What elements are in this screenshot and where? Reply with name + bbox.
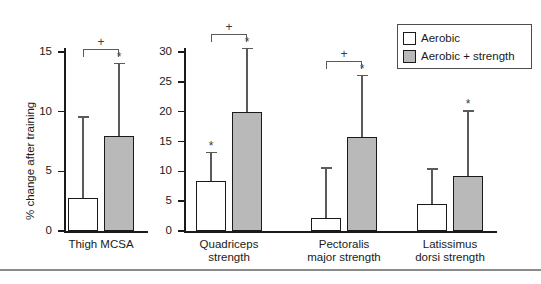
x-axis-category-label-strength-measures-1: Pectoralismajor strength — [284, 238, 404, 264]
x-axis-category-line: Pectoralis — [284, 238, 404, 251]
figure-bar-chart: % change after training 051015*+Thigh MC… — [0, 0, 541, 284]
y-axis-tick-label-strength-measures-25: 25 — [140, 76, 172, 88]
significance-asterisk-strength-measures-0-aerobic: * — [202, 141, 220, 151]
significance-bracket-thigh-0 — [83, 49, 119, 58]
y-axis-tick-label-strength-measures-15: 15 — [140, 136, 172, 148]
x-axis-line-strength-measures — [184, 231, 497, 233]
x-axis-category-label-strength-measures-0: Quadricepsstrength — [169, 238, 289, 264]
error-bar-strength-measures-0-aerobic-strength — [246, 48, 247, 112]
x-axis-category-line: Quadriceps — [169, 238, 289, 251]
bar-strength-measures-0-aerobic-strength — [232, 112, 262, 231]
y-axis-tick-label-thigh-10: 10 — [20, 106, 52, 118]
error-bar-strength-measures-0-aerobic — [210, 152, 211, 182]
error-bar-strength-measures-2-aerobic-strength — [467, 110, 468, 176]
y-axis-tick-strength-measures-25 — [178, 81, 184, 83]
y-axis-tick-thigh-5 — [58, 171, 64, 173]
y-axis-tick-label-strength-measures-20: 20 — [140, 106, 172, 118]
legend-item-aerobic-strength: Aerobic + strength — [403, 47, 526, 65]
significance-bracket-strength-measures-1 — [326, 61, 362, 70]
significance-bracket-strength-measures-0 — [211, 34, 247, 43]
y-axis-line-thigh — [64, 48, 66, 233]
error-bar-strength-measures-1-aerobic — [325, 167, 326, 218]
legend-swatch-aerobic — [403, 32, 416, 45]
y-axis-tick-strength-measures-15 — [178, 141, 184, 143]
error-bar-cap-thigh-0-aerobic — [78, 116, 89, 117]
y-axis-tick-label-thigh-0: 0 — [20, 225, 52, 237]
legend-item-aerobic: Aerobic — [403, 29, 526, 47]
x-axis-line-thigh — [64, 231, 148, 233]
error-bar-strength-measures-1-aerobic-strength — [361, 75, 362, 138]
error-bar-cap-strength-measures-2-aerobic — [427, 168, 438, 169]
y-axis-tick-label-thigh-15: 15 — [20, 46, 52, 58]
bar-strength-measures-2-aerobic-strength — [453, 176, 483, 231]
y-axis-tick-label-strength-measures-10: 10 — [140, 165, 172, 177]
bar-strength-measures-2-aerobic — [417, 204, 447, 231]
bar-strength-measures-1-aerobic — [311, 218, 341, 231]
y-axis-line-strength-measures — [184, 48, 186, 233]
y-axis-tick-strength-measures-20 — [178, 111, 184, 113]
error-bar-strength-measures-2-aerobic — [431, 168, 432, 204]
significance-plus-strength-measures-0: + — [220, 22, 238, 32]
y-axis-tick-thigh-10 — [58, 111, 64, 113]
x-axis-category-label-strength-measures-2: Latissimusdorsi strength — [390, 238, 510, 264]
significance-plus-strength-measures-1: + — [335, 49, 353, 59]
x-axis-category-line: dorsi strength — [390, 251, 510, 264]
legend-swatch-aerobic-strength — [403, 50, 416, 63]
y-axis-tick-strength-measures-10 — [178, 171, 184, 173]
x-axis-category-line: strength — [169, 251, 289, 264]
legend-label-aerobic: Aerobic — [421, 32, 460, 45]
significance-asterisk-strength-measures-2-aerobic-strength: * — [459, 99, 477, 109]
panel-thigh-mcsa: 051015*+Thigh MCSA — [0, 0, 150, 284]
bar-thigh-0-aerobic — [68, 198, 98, 231]
bar-strength-measures-1-aerobic-strength — [347, 137, 377, 231]
bar-thigh-0-aerobic-strength — [104, 136, 134, 231]
error-bar-cap-strength-measures-1-aerobic — [321, 167, 332, 168]
y-axis-tick-label-strength-measures-30: 30 — [140, 46, 172, 58]
y-axis-tick-strength-measures-30 — [178, 51, 184, 53]
y-axis-tick-label-strength-measures-5: 5 — [140, 195, 172, 207]
error-bar-thigh-0-aerobic-strength — [118, 63, 119, 136]
error-bar-thigh-0-aerobic — [82, 116, 83, 197]
x-axis-category-label-thigh-0: Thigh MCSA — [41, 238, 161, 251]
y-axis-tick-label-thigh-5: 5 — [20, 165, 52, 177]
x-axis-category-line: Thigh MCSA — [41, 238, 161, 251]
x-axis-category-line: Latissimus — [390, 238, 510, 251]
legend-label-aerobic-strength: Aerobic + strength — [421, 50, 515, 63]
bar-strength-measures-0-aerobic — [196, 181, 226, 231]
y-axis-tick-thigh-15 — [58, 51, 64, 53]
y-axis-tick-label-strength-measures-0: 0 — [140, 225, 172, 237]
legend: Aerobic Aerobic + strength — [397, 24, 532, 69]
significance-plus-thigh-0: + — [92, 37, 110, 47]
x-axis-category-line: major strength — [284, 251, 404, 264]
figure-bottom-rule — [0, 269, 541, 271]
y-axis-tick-strength-measures-5 — [178, 200, 184, 202]
